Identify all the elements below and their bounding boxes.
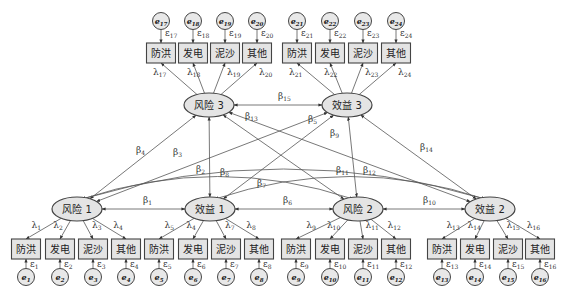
indicator-label: 发电 xyxy=(183,243,203,255)
epsilon-label: ε7 xyxy=(230,259,239,270)
lambda-label: λ21 xyxy=(289,67,302,78)
lambda-label: λ24 xyxy=(398,67,412,78)
indicator-label: 防洪 xyxy=(286,243,306,255)
epsilon-label: ε2 xyxy=(64,259,73,270)
epsilon-label: ε23 xyxy=(367,28,379,39)
lambda-label: λ4 xyxy=(186,220,196,231)
path-line xyxy=(223,115,344,199)
indicator-label: 其他 xyxy=(247,47,267,59)
indicator-label: 泥沙 xyxy=(498,243,518,255)
sem-path-diagram: β1β6β10β15β4β5β2β3β8β9β7β11β13β12β14 λ1防… xyxy=(0,0,564,297)
lambda-label: λ1 xyxy=(32,220,42,231)
indicator-label: 泥沙 xyxy=(216,243,236,255)
path-line xyxy=(223,115,333,199)
indicator-label: 防洪 xyxy=(16,243,36,255)
latent-label: 效益 1 xyxy=(195,203,225,215)
indicator-label: 泥沙 xyxy=(353,243,373,255)
indicator-label: 发电 xyxy=(320,47,340,59)
lambda-label: λ14 xyxy=(468,220,482,231)
lambda-label: λ18 xyxy=(187,67,201,78)
beta-label: β10 xyxy=(423,195,436,206)
epsilon-label: ε5 xyxy=(163,259,172,270)
path-beta14: β14 xyxy=(361,115,476,199)
path-beta6: β6 xyxy=(235,195,333,209)
latent-node-r2: 风险 2 xyxy=(333,197,383,221)
beta-label: β11 xyxy=(336,165,349,176)
epsilon-label: ε20 xyxy=(261,28,273,39)
epsilon-label: ε4 xyxy=(130,259,139,270)
path-beta10: β10 xyxy=(383,195,465,209)
lambda-label: λ10 xyxy=(327,220,341,231)
epsilon-label: ε17 xyxy=(165,28,177,39)
lambda-label: λ22 xyxy=(324,67,338,78)
beta-label: β9 xyxy=(330,128,339,139)
beta-label: β5 xyxy=(308,114,317,125)
path-beta5: β5 xyxy=(96,113,327,202)
loading-line xyxy=(193,63,205,93)
beta-label: β13 xyxy=(245,111,258,122)
loading-line xyxy=(330,63,342,93)
curved-path-line xyxy=(215,177,485,200)
epsilon-label: ε6 xyxy=(197,259,206,270)
beta-label: β1 xyxy=(143,195,152,206)
beta-label: β14 xyxy=(420,142,433,153)
path-line xyxy=(209,117,210,197)
latent-label: 风险 1 xyxy=(62,203,92,215)
beta-label: β8 xyxy=(220,167,229,178)
latent-node-b3: 效益 3 xyxy=(322,93,372,117)
epsilon-label: ε19 xyxy=(229,28,241,39)
loading-line xyxy=(351,63,363,93)
indicator-泥沙: λ7泥沙ε7e7 xyxy=(212,220,241,286)
path-beta7: β7 xyxy=(215,177,485,200)
latent-label: 风险 2 xyxy=(343,203,373,215)
beta-label: β4 xyxy=(136,145,145,156)
path-beta1: β1 xyxy=(102,195,185,209)
epsilon-label: ε13 xyxy=(446,259,458,270)
indicator-label: 其他 xyxy=(116,243,136,255)
indicator-泥沙: λ15泥沙ε15e15 xyxy=(494,220,525,286)
lambda-label: λ23 xyxy=(365,67,379,78)
indicator-label: 防洪 xyxy=(151,47,171,59)
indicator-label: 泥沙 xyxy=(83,243,103,255)
beta-label: β7 xyxy=(257,178,266,189)
lambda-label: λ8 xyxy=(246,220,256,231)
indicator-label: 发电 xyxy=(50,243,70,255)
epsilon-label: ε11 xyxy=(367,259,379,270)
epsilon-label: ε12 xyxy=(400,259,412,270)
measurement-model: λ1防洪ε1e1λ2发电ε2e2λ3泥沙ε3e3λ4其他ε4e4λ5防洪ε5e5… xyxy=(12,13,557,286)
epsilon-label: ε24 xyxy=(400,28,412,39)
epsilon-label: ε9 xyxy=(300,259,309,270)
epsilon-label: ε1 xyxy=(30,259,39,270)
latent-node-r1: 风险 1 xyxy=(52,197,102,221)
indicator-泥沙: λ11泥沙ε11e11 xyxy=(349,220,380,286)
lambda-label: λ17 xyxy=(153,67,167,78)
beta-label: β15 xyxy=(278,91,291,102)
indicator-label: 泥沙 xyxy=(215,47,235,59)
lambda-label: λ13 xyxy=(446,220,460,231)
path-line xyxy=(361,115,476,199)
lambda-label: λ4 xyxy=(113,220,123,231)
indicator-label: 其他 xyxy=(386,243,406,255)
beta-label: β3 xyxy=(173,147,182,158)
indicator-label: 防洪 xyxy=(287,47,307,59)
latent-node-b2: 效益 2 xyxy=(465,197,515,221)
lambda-label: λ12 xyxy=(387,220,401,231)
indicator-泥沙: λ3泥沙ε3e3 xyxy=(79,220,108,286)
indicator-发电: λ4发电ε6e6 xyxy=(179,220,208,286)
epsilon-label: ε21 xyxy=(301,28,313,39)
latent-node-r3: 风险 3 xyxy=(184,93,234,117)
indicator-label: 其他 xyxy=(386,47,406,59)
indicator-label: 发电 xyxy=(320,243,340,255)
epsilon-label: ε22 xyxy=(334,28,346,39)
lambda-label: λ5 xyxy=(165,220,175,231)
loading-line xyxy=(213,63,225,93)
lambda-label: λ11 xyxy=(365,220,378,231)
indicator-label: 发电 xyxy=(465,243,485,255)
structural-paths: β1β6β10β15β4β5β2β3β8β9β7β11β13β12β14 xyxy=(82,91,485,209)
epsilon-label: ε16 xyxy=(544,259,556,270)
latent-label: 效益 3 xyxy=(332,99,362,111)
indicator-发电: λ14发电ε14e14 xyxy=(461,220,492,286)
path-line xyxy=(96,113,327,202)
epsilon-label: ε8 xyxy=(263,259,272,270)
epsilon-label: ε18 xyxy=(197,28,209,39)
